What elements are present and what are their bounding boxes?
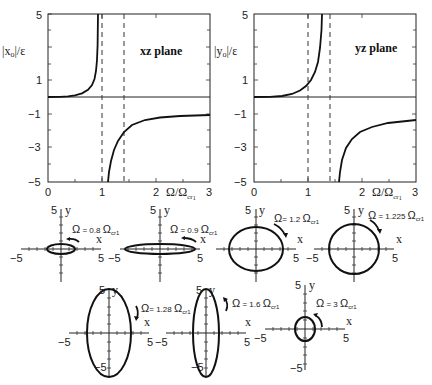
- omega-label: Ω = 1.6 Ωcr1: [232, 297, 280, 310]
- curve-lower-branch: [254, 14, 322, 97]
- omega-label: Ω= 1.28 Ωcr1: [141, 302, 191, 315]
- ylabel-yz: |yo|/ε: [214, 44, 237, 59]
- svg-text:5: 5: [98, 252, 104, 264]
- ytick-5: 5: [36, 9, 42, 21]
- svg-text:x: x: [245, 315, 251, 329]
- ytick-neg1: −1: [234, 108, 247, 120]
- panel-xz: 5 1 −1 −3 −5 0 1 2 3 |xo|/ε Ω/Ωcr1 xz pl…: [2, 9, 212, 201]
- orbit-plot-3: 5 y x −5 5 −5 Ω = 3 Ωcr1: [254, 278, 357, 374]
- orbit-plot-1.2: 5 y x 5 Ω= 1.2 Ωcr1: [216, 203, 320, 282]
- figure: 5 1 −1 −3 −5 0 1 2 3 |xo|/ε Ω/Ωcr1 xz pl…: [0, 0, 432, 385]
- plane-label-yz: yz plane: [355, 41, 398, 55]
- xtick-1: 1: [305, 186, 311, 198]
- ytick-neg5: −5: [234, 176, 247, 188]
- orbit-plot-0.9: 5 y x −5 5 Ω = 0.9 Ωcr1: [108, 203, 218, 282]
- ytick-1: 1: [242, 74, 248, 86]
- svg-text:x: x: [396, 232, 402, 246]
- svg-text:−5: −5: [306, 252, 319, 264]
- xlabel-xz: Ω/Ωcr1: [166, 185, 196, 201]
- svg-text:5: 5: [51, 204, 57, 216]
- svg-text:5: 5: [147, 336, 153, 348]
- svg-text:5: 5: [295, 279, 301, 291]
- svg-text:x: x: [144, 315, 150, 329]
- svg-text:5: 5: [344, 204, 350, 216]
- curve-upper-branch: [108, 115, 210, 182]
- svg-text:y: y: [309, 278, 315, 292]
- ylabel-xz: |xo|/ε: [2, 44, 25, 59]
- svg-text:x: x: [346, 314, 352, 328]
- omega-label: Ω = 0.9 Ωcr1: [170, 223, 218, 236]
- orbit-plot-0.8: 5 y x −5 5 Ω = 0.8 Ωcr1: [10, 203, 120, 282]
- ytick-neg5: −5: [28, 176, 41, 188]
- curve-lower-branch: [48, 14, 98, 97]
- svg-text:5: 5: [150, 204, 156, 216]
- omega-label: Ω = 3 Ωcr1: [316, 297, 357, 310]
- svg-text:5: 5: [197, 252, 203, 264]
- xtick-2: 2: [153, 186, 159, 198]
- xtick-1: 1: [99, 186, 105, 198]
- ytick-1: 1: [36, 74, 42, 86]
- curve-upper-branch: [339, 120, 416, 182]
- svg-text:y: y: [358, 203, 364, 217]
- xtick-3: 3: [412, 186, 418, 198]
- svg-text:y: y: [164, 203, 170, 217]
- omega-label: Ω = 0.8 Ωcr1: [72, 223, 120, 236]
- xlabel-yz: Ω/Ωcr1: [372, 185, 402, 201]
- svg-text:5: 5: [245, 204, 251, 216]
- xtick-3: 3: [206, 186, 212, 198]
- orbit-plot-1.6: 5 y x −5 5 −5 Ω = 1.6 Ωcr1: [155, 283, 280, 377]
- svg-text:5: 5: [343, 332, 349, 344]
- svg-text:y: y: [65, 203, 71, 217]
- ytick-neg3: −3: [28, 141, 41, 153]
- ytick-5: 5: [242, 9, 248, 21]
- orbit-plot-1.28: 5 y x −5 5 −5 Ω= 1.28 Ωcr1: [58, 283, 191, 377]
- plane-label-xz: xz plane: [140, 44, 183, 58]
- xtick-0: 0: [251, 186, 257, 198]
- ytick-neg1: −1: [28, 108, 41, 120]
- svg-text:−5: −5: [108, 252, 121, 264]
- omega-label: Ω = 1.225 Ωcr1: [368, 209, 425, 222]
- svg-text:−5: −5: [290, 362, 303, 374]
- panel-yz: 5 1 −1 −3 −5 0 1 2 3 |yo|/ε Ω/Ωcr1 yz pl…: [214, 9, 418, 201]
- svg-text:−5: −5: [254, 332, 267, 344]
- xtick-0: 0: [45, 186, 51, 198]
- svg-text:−5: −5: [58, 336, 71, 348]
- orbit-plot-1.225: 5 y x −5 5 Ω = 1.225 Ωcr1: [306, 203, 425, 282]
- svg-text:x: x: [297, 232, 303, 246]
- svg-text:−5: −5: [155, 336, 168, 348]
- omega-label: Ω= 1.2 Ωcr1: [274, 212, 320, 225]
- plot-frame: [254, 14, 416, 182]
- plot-frame: [48, 14, 210, 182]
- svg-text:−5: −5: [10, 252, 23, 264]
- svg-text:5: 5: [293, 252, 299, 264]
- svg-text:y: y: [259, 203, 265, 217]
- rotation-arrow: [136, 306, 138, 318]
- ytick-neg3: −3: [234, 141, 247, 153]
- xtick-2: 2: [359, 186, 365, 198]
- svg-text:5: 5: [244, 336, 250, 348]
- svg-text:5: 5: [392, 252, 398, 264]
